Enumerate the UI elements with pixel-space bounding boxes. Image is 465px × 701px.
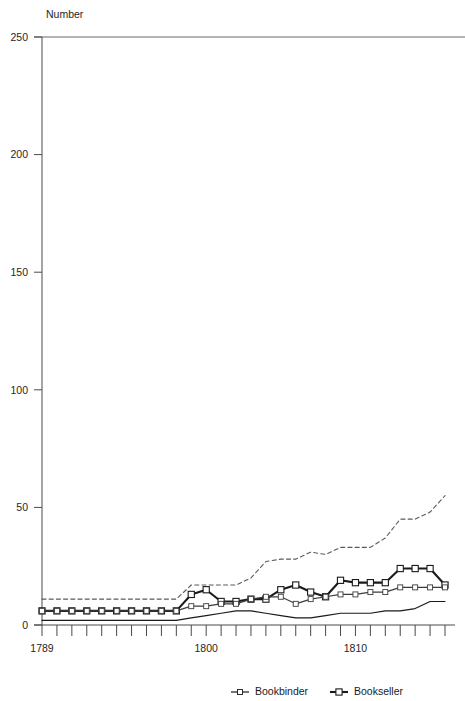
series-point-marker bbox=[428, 585, 433, 590]
y-axis-title-group: Number bbox=[46, 8, 84, 20]
series-point-marker bbox=[293, 582, 299, 588]
legend-square-marker-icon bbox=[238, 690, 243, 695]
x-axis-ticks-group bbox=[42, 625, 445, 636]
series-point-marker bbox=[234, 601, 239, 606]
series-point-marker bbox=[189, 604, 194, 609]
series-point-marker bbox=[84, 608, 89, 613]
series-point-marker bbox=[382, 580, 388, 586]
y-axis-tick-label: 250 bbox=[10, 31, 28, 43]
line-chart-svg: Number 050100150200250 178918001810 Book… bbox=[0, 0, 465, 701]
series-point-marker bbox=[278, 587, 284, 593]
legend-label: Bookbinder bbox=[255, 685, 309, 697]
legend-item-bookbinder[interactable]: Bookbinder bbox=[231, 685, 309, 697]
series-point-marker bbox=[338, 592, 343, 597]
series-point-marker bbox=[398, 585, 403, 590]
x-axis-tick-label: 1810 bbox=[344, 642, 368, 654]
series-point-marker bbox=[188, 591, 194, 597]
series-point-marker bbox=[367, 580, 373, 586]
series-point-marker bbox=[99, 608, 104, 613]
series-point-marker bbox=[308, 597, 313, 602]
series-point-marker bbox=[353, 592, 358, 597]
series-point-marker bbox=[323, 594, 328, 599]
y-axis-tick-label: 100 bbox=[10, 384, 28, 396]
y-axis-ticks-group: 050100150200250 bbox=[10, 31, 42, 631]
series-point-marker bbox=[203, 587, 209, 593]
y-axis-title: Number bbox=[46, 8, 84, 20]
series-point-marker bbox=[144, 608, 149, 613]
series-point-marker bbox=[219, 601, 224, 606]
series-point-marker bbox=[397, 565, 403, 571]
series-point-marker bbox=[383, 590, 388, 595]
series-point-marker bbox=[263, 594, 268, 599]
series-point-marker bbox=[54, 608, 59, 613]
series-point-marker bbox=[413, 585, 418, 590]
legend-item-bookseller[interactable]: Bookseller bbox=[330, 685, 404, 697]
series-point-marker bbox=[159, 608, 164, 613]
series-point-marker bbox=[129, 608, 134, 613]
series-point-marker bbox=[443, 585, 448, 590]
series-point-marker bbox=[412, 565, 418, 571]
series-point-marker bbox=[174, 608, 179, 613]
y-axis-tick-label: 0 bbox=[22, 619, 28, 631]
data-series-group bbox=[39, 496, 448, 621]
series-point-marker bbox=[278, 594, 283, 599]
chart-figure: Number 050100150200250 178918001810 Book… bbox=[0, 0, 465, 701]
x-axis-tick-label: 1800 bbox=[195, 642, 219, 654]
y-axis-tick-label: 50 bbox=[16, 501, 28, 513]
series-point-marker bbox=[427, 565, 433, 571]
y-axis-tick-label: 200 bbox=[10, 148, 28, 160]
x-axis-tick-label: 1789 bbox=[30, 642, 54, 654]
y-axis-tick-label: 150 bbox=[10, 266, 28, 278]
series-point-marker bbox=[368, 590, 373, 595]
series-point-marker bbox=[308, 589, 314, 595]
series-point-marker bbox=[114, 608, 119, 613]
chart-legend: BookbinderBookseller bbox=[231, 685, 404, 697]
series-point-marker bbox=[248, 597, 253, 602]
series-point-marker bbox=[337, 577, 343, 583]
x-axis-tick-labels-group: 178918001810 bbox=[30, 642, 367, 654]
legend-label: Bookseller bbox=[354, 685, 404, 697]
series-point-marker bbox=[352, 580, 358, 586]
series-point-marker bbox=[40, 608, 45, 613]
series-point-marker bbox=[293, 601, 298, 606]
series-point-marker bbox=[69, 608, 74, 613]
series-point-marker bbox=[204, 604, 209, 609]
legend-square-marker-icon bbox=[336, 689, 342, 695]
